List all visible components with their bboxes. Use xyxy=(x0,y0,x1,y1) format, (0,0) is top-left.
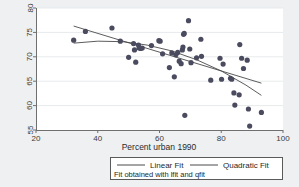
y-tick-label: 70 xyxy=(26,52,35,61)
scatter-point xyxy=(172,74,177,79)
y-tick-label: 75 xyxy=(26,27,35,36)
scatter-point xyxy=(149,43,154,48)
x-tick-label: 100 xyxy=(276,134,290,143)
scatter-point xyxy=(118,39,123,44)
scatter-point xyxy=(182,31,187,36)
scatter-point xyxy=(83,29,88,34)
scatter-point xyxy=(132,47,137,52)
scatter-point xyxy=(133,60,138,65)
x-tick-label: 40 xyxy=(93,134,102,143)
scatter-point xyxy=(199,54,204,59)
scatter-point xyxy=(194,55,199,60)
scatter-point xyxy=(219,77,224,82)
scatter-point xyxy=(231,90,236,95)
y-tick-label: 60 xyxy=(26,101,35,110)
legend-note: Fit obtained with lfit and qfit xyxy=(114,170,206,179)
scatter-point xyxy=(217,56,222,61)
scatter-point xyxy=(221,62,226,67)
chart-screenshot: 556065707580 20406080100 Percent urban 1… xyxy=(0,0,299,187)
scatter-point xyxy=(167,65,172,70)
scatter-point xyxy=(186,18,191,23)
scatter-point xyxy=(175,50,180,55)
scatter-point xyxy=(246,106,251,111)
scatter-point xyxy=(259,110,264,115)
legend-label-quadratic-fit: Quadratic Fit xyxy=(223,161,270,170)
y-tick-label: 80 xyxy=(26,3,35,12)
x-tick-label: 20 xyxy=(32,134,41,143)
scatter-point xyxy=(126,55,131,60)
scatter-point xyxy=(232,103,237,108)
scatter-point xyxy=(182,113,187,118)
scatter-point xyxy=(187,46,192,51)
scatter-point xyxy=(158,39,163,44)
scatter-point xyxy=(71,38,76,43)
legend-label-linear-fit: Linear Fit xyxy=(150,161,184,170)
x-axis-title: Percent urban 1990 xyxy=(122,142,197,152)
scatter-point xyxy=(237,92,242,97)
scatter-point xyxy=(198,37,203,42)
scatter-plot-figure: 556065707580 20406080100 Percent urban 1… xyxy=(0,0,299,187)
scatter-point xyxy=(239,56,244,61)
scatter-point xyxy=(229,77,234,82)
scatter-point xyxy=(140,45,145,50)
scatter-point xyxy=(188,60,193,65)
y-tick-label: 65 xyxy=(26,76,35,85)
scatter-point xyxy=(179,61,184,66)
scatter-point xyxy=(241,66,246,71)
scatter-point xyxy=(160,51,165,56)
scatter-point xyxy=(245,58,250,63)
legend-box: Linear Fit Quadratic Fit Fit obtained wi… xyxy=(111,158,283,180)
scatter-point xyxy=(131,41,136,46)
scatter-point xyxy=(208,78,213,83)
scatter-point xyxy=(180,44,185,49)
scatter-point xyxy=(109,25,114,30)
x-tick-label: 80 xyxy=(217,134,226,143)
scatter-point xyxy=(247,124,252,129)
scatter-point xyxy=(237,42,242,47)
